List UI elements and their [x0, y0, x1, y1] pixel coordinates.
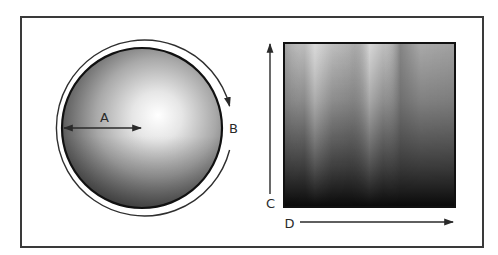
label-radius: A — [100, 110, 109, 125]
circle-panel: A B — [56, 40, 238, 216]
label-horizontal-axis: D — [284, 216, 294, 231]
gradient-square-stripes — [284, 43, 455, 207]
diagram: A B C D — [0, 0, 498, 255]
square-panel: C D — [266, 43, 455, 231]
label-circumference: B — [229, 121, 238, 136]
label-vertical-axis: C — [266, 196, 275, 211]
